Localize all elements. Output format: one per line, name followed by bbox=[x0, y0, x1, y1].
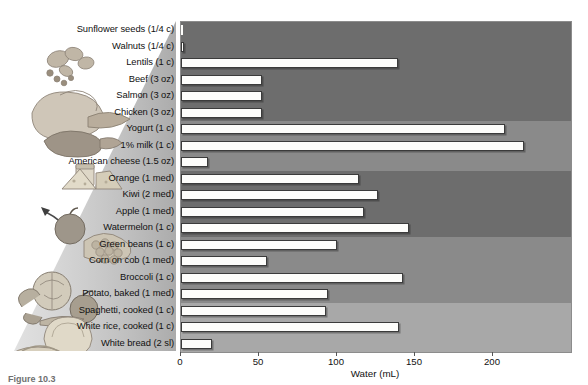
category-label: Walnuts (1/4 c) bbox=[112, 38, 174, 55]
bar-white-bread-2-sl bbox=[181, 339, 212, 349]
bar-row bbox=[181, 237, 571, 254]
category-label: White rice, cooked (1 c) bbox=[77, 318, 174, 335]
figure-water-content-of-foods: Sunflower seeds (1/4 c)Walnuts (1/4 c)Le… bbox=[0, 0, 588, 385]
bar-row bbox=[181, 138, 571, 155]
category-label: Yogurt (1 c) bbox=[126, 120, 174, 137]
category-label: Apple (1 med) bbox=[116, 203, 174, 220]
category-label: Chicken (3 oz) bbox=[114, 104, 174, 121]
bar-potato-baked-1-med bbox=[181, 289, 328, 299]
bar-row bbox=[181, 220, 571, 237]
bar-apple-1-med bbox=[181, 207, 364, 217]
plot-area bbox=[180, 21, 572, 353]
category-label: Green beans (1 c) bbox=[99, 236, 174, 253]
bar-white-rice-cooked-1-c bbox=[181, 322, 399, 332]
bar-row bbox=[181, 286, 571, 303]
bar-row bbox=[181, 105, 571, 122]
category-label: Kiwi (2 med) bbox=[123, 186, 175, 203]
category-label: Beef (3 oz) bbox=[129, 71, 174, 88]
bar-row bbox=[181, 72, 571, 89]
category-label: Lentils (1 c) bbox=[126, 54, 174, 71]
x-axis-title: Water (mL) bbox=[180, 368, 570, 379]
bar-row bbox=[181, 303, 571, 320]
category-label: 1% milk (1 c) bbox=[120, 137, 174, 154]
bar-beef-3-oz bbox=[181, 75, 262, 85]
bar-walnuts-1-4-c bbox=[181, 42, 184, 52]
category-label: Watermelon (1 c) bbox=[103, 219, 174, 236]
bar-row bbox=[181, 319, 571, 336]
bar-salmon-3-oz bbox=[181, 91, 262, 101]
bar-row bbox=[181, 336, 571, 353]
bar-row bbox=[181, 270, 571, 287]
category-label: Corn on cob (1 med) bbox=[89, 252, 174, 269]
bar-row bbox=[181, 154, 571, 171]
bar-watermelon-1-c bbox=[181, 223, 409, 233]
bar-corn-on-cob-1-med bbox=[181, 256, 267, 266]
category-label: Broccoli (1 c) bbox=[120, 269, 174, 286]
bar-yogurt-1-c bbox=[181, 124, 505, 134]
x-axis-tick-label: 0 bbox=[177, 356, 182, 367]
bar-broccoli-1-c bbox=[181, 273, 403, 283]
category-label: Potato, baked (1 med) bbox=[82, 285, 174, 302]
bar-row bbox=[181, 88, 571, 105]
category-label-column: Sunflower seeds (1/4 c)Walnuts (1/4 c)Le… bbox=[0, 21, 177, 351]
bar-green-beans-1-c bbox=[181, 240, 337, 250]
bar-row bbox=[181, 39, 571, 56]
bar-row bbox=[181, 171, 571, 188]
category-label: Orange (1 med) bbox=[109, 170, 174, 187]
x-axis: 050100150200 bbox=[180, 352, 572, 366]
category-label: Sunflower seeds (1/4 c) bbox=[77, 21, 174, 38]
category-label: American cheese (1.5 oz) bbox=[68, 153, 174, 170]
bar-row bbox=[181, 187, 571, 204]
bar-spaghetti-cooked-1-c bbox=[181, 306, 326, 316]
bar-row bbox=[181, 121, 571, 138]
bar-chicken-3-oz bbox=[181, 108, 262, 118]
bar-row bbox=[181, 55, 571, 72]
x-axis-tick-label: 50 bbox=[253, 356, 264, 367]
bar-row bbox=[181, 204, 571, 221]
category-label: White bread (2 sl) bbox=[101, 335, 174, 352]
bar-american-cheese-1-5-oz bbox=[181, 157, 208, 167]
x-axis-tick-label: 150 bbox=[406, 356, 422, 367]
bar-lentils-1-c bbox=[181, 58, 398, 68]
category-label: Spaghetti, cooked (1 c) bbox=[79, 302, 174, 319]
bar-orange-1-med bbox=[181, 174, 359, 184]
bar-1-milk-1-c bbox=[181, 141, 524, 151]
bar-row bbox=[181, 22, 571, 39]
category-label: Salmon (3 oz) bbox=[116, 87, 174, 104]
x-axis-tick-label: 100 bbox=[328, 356, 344, 367]
bar-kiwi-2-med bbox=[181, 190, 378, 200]
figure-caption: Figure 10.3 bbox=[8, 374, 56, 384]
bar-row bbox=[181, 253, 571, 270]
x-axis-tick-label: 200 bbox=[484, 356, 500, 367]
bar-sunflower-seeds-1-4-c bbox=[181, 25, 183, 35]
